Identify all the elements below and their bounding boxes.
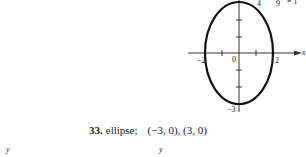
equation-rhs: = 1 bbox=[287, 0, 298, 6]
equation-denominator-9: 9 bbox=[276, 0, 280, 8]
next-figure-y-label-mid: y bbox=[159, 145, 163, 154]
tick-label-x-pos-2: 2 bbox=[275, 57, 279, 65]
caption-points: (−3, 0), (3, 0) bbox=[148, 124, 207, 136]
ellipse-plot bbox=[0, 0, 306, 120]
tick-label-y-neg-3: −3 bbox=[227, 106, 236, 114]
caption-text: ellipse; bbox=[106, 124, 138, 136]
ellipse-graph: 4 9 = 1 x −2 2 0 −3 bbox=[0, 0, 306, 120]
tick-label-x-neg-2: −2 bbox=[197, 57, 206, 65]
x-axis-label: x bbox=[302, 49, 306, 57]
figure-caption: 33.ellipse;(−3, 0), (3, 0) bbox=[89, 124, 207, 136]
next-figure-y-label-left: y bbox=[6, 145, 10, 154]
tick-label-origin: 0 bbox=[232, 56, 236, 64]
x-axis-arrow-icon bbox=[294, 51, 302, 56]
exercise-number: 33. bbox=[89, 124, 103, 136]
equation-denominator-4: 4 bbox=[257, 0, 261, 8]
